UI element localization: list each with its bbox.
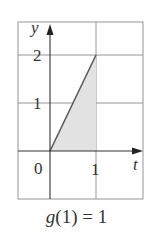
y-tick-1: 1: [33, 94, 42, 113]
caption: g(1) = 1: [0, 206, 153, 228]
caption-rest: = 1: [77, 206, 107, 227]
y-axis-label: y: [29, 18, 39, 37]
t-axis-label: t: [133, 155, 139, 174]
t-axis-arrow-icon: [132, 148, 143, 155]
y-tick-2: 2: [33, 46, 42, 65]
caption-func: g: [46, 206, 56, 227]
x-tick-1: 1: [91, 160, 100, 179]
caption-arg: (1): [55, 206, 77, 227]
y-axis-arrow-icon: [47, 24, 54, 35]
origin-label: 0: [34, 159, 43, 178]
